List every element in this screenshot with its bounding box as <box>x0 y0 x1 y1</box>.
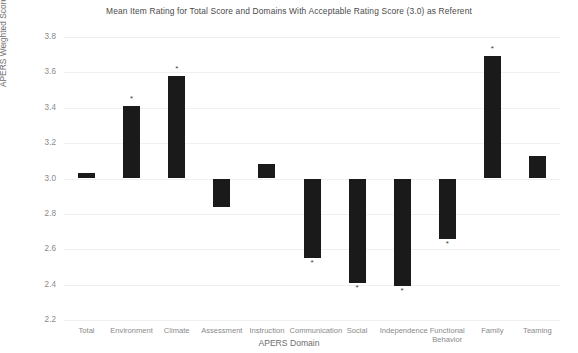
y-gridline <box>64 37 560 38</box>
x-axis-title: APERS Domain <box>0 338 578 348</box>
x-axis-tick-label: Family <box>470 326 515 335</box>
y-gridline <box>64 320 560 321</box>
significance-asterisk: * <box>125 95 139 103</box>
x-axis-tick-label: Functional Behavior <box>425 326 470 344</box>
x-axis-tick-label: Instruction <box>244 326 289 335</box>
bar[interactable] <box>213 179 230 207</box>
y-axis-title: APERS Weighted Score <box>0 0 8 112</box>
significance-asterisk: * <box>395 287 409 295</box>
significance-asterisk: * <box>440 240 454 248</box>
plot-area: ******* <box>64 37 560 320</box>
bar[interactable] <box>78 173 95 178</box>
y-axis-tick-label: 2.4 <box>26 280 56 289</box>
bar[interactable] <box>349 179 366 283</box>
significance-asterisk: * <box>485 45 499 53</box>
x-axis-tick-label: Communication <box>289 326 334 335</box>
x-axis-tick-label: Teaming <box>515 326 560 335</box>
bar[interactable] <box>123 106 140 179</box>
x-axis-tick-label: Climate <box>154 326 199 335</box>
chart-container: Mean Item Rating for Total Score and Dom… <box>0 0 578 353</box>
y-axis-tick-label: 2.2 <box>26 315 56 324</box>
y-axis-tick-label: 2.8 <box>26 209 56 218</box>
bar[interactable] <box>439 179 456 239</box>
y-axis-tick-label: 3.4 <box>26 103 56 112</box>
x-axis-tick-label: Assessment <box>199 326 244 335</box>
y-axis-tick-label: 3.8 <box>26 32 56 41</box>
significance-asterisk: * <box>170 65 184 73</box>
x-axis-tick-label: Social <box>335 326 380 335</box>
y-gridline <box>64 285 560 286</box>
chart-title: Mean Item Rating for Total Score and Dom… <box>0 6 578 16</box>
bar[interactable] <box>529 156 546 179</box>
x-axis-tick-label: Environment <box>109 326 154 335</box>
significance-asterisk: * <box>350 284 364 292</box>
bar[interactable] <box>484 56 501 178</box>
bar[interactable] <box>304 179 321 259</box>
y-axis-tick-label: 3.6 <box>26 67 56 76</box>
x-axis-tick-label: Total <box>64 326 109 335</box>
bar[interactable] <box>168 76 185 179</box>
bar[interactable] <box>258 164 275 178</box>
bar[interactable] <box>394 179 411 287</box>
y-axis-tick-label: 2.6 <box>26 244 56 253</box>
y-axis-tick-label: 3.0 <box>26 174 56 183</box>
x-axis-tick-label: Independence <box>380 326 425 335</box>
significance-asterisk: * <box>305 259 319 267</box>
y-axis-tick-label: 3.2 <box>26 138 56 147</box>
